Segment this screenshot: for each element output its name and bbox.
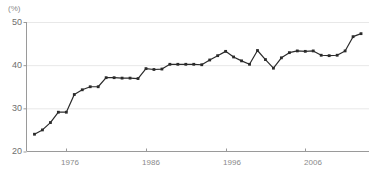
- data-point-marker: [176, 63, 179, 66]
- data-point-marker: [161, 68, 164, 71]
- data-point-marker: [113, 76, 116, 79]
- data-point-marker: [168, 63, 171, 66]
- data-point-marker: [208, 59, 211, 62]
- data-point-marker: [224, 50, 227, 53]
- data-point-marker: [184, 63, 187, 66]
- data-point-marker: [137, 77, 140, 80]
- plot-area: [0, 0, 376, 172]
- data-point-marker: [336, 54, 339, 57]
- data-point-marker: [304, 50, 307, 53]
- data-point-marker: [89, 85, 92, 88]
- line-chart: (%) 50 40 30 20 1976 1986 1996 2006: [0, 0, 376, 172]
- data-line: [34, 34, 361, 135]
- data-point-marker: [328, 54, 331, 57]
- data-point-marker: [256, 49, 259, 52]
- data-point-marker: [57, 111, 60, 114]
- data-point-marker: [65, 111, 68, 114]
- data-point-marker: [280, 56, 283, 59]
- data-point-marker: [296, 50, 299, 53]
- data-point-marker: [216, 54, 219, 57]
- data-point-marker: [264, 58, 267, 61]
- data-point-marker: [49, 121, 52, 124]
- data-point-marker: [352, 35, 355, 38]
- data-point-marker: [360, 32, 363, 35]
- data-point-marker: [232, 56, 235, 59]
- data-point-marker: [81, 88, 84, 91]
- data-point-marker: [312, 50, 315, 53]
- data-point-marker: [272, 67, 275, 70]
- data-markers: [33, 32, 362, 135]
- data-point-marker: [33, 133, 36, 136]
- data-point-marker: [73, 93, 76, 96]
- data-point-marker: [200, 63, 203, 66]
- data-point-marker: [41, 129, 44, 132]
- data-point-marker: [248, 63, 251, 66]
- data-point-marker: [129, 77, 132, 80]
- data-point-marker: [153, 68, 156, 71]
- data-point-marker: [288, 51, 291, 54]
- data-point-marker: [320, 54, 323, 57]
- data-point-marker: [145, 67, 148, 70]
- data-point-marker: [121, 77, 124, 80]
- axis-lines: [27, 22, 370, 152]
- gridlines: [27, 23, 370, 109]
- data-point-marker: [192, 63, 195, 66]
- data-point-marker: [344, 50, 347, 53]
- data-point-marker: [97, 85, 100, 88]
- data-point-marker: [105, 76, 108, 79]
- data-point-marker: [240, 59, 243, 62]
